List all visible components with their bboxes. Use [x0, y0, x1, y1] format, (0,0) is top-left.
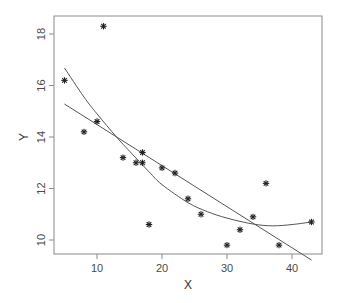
x-axis-title: X [184, 278, 192, 292]
x-axis: 10203040 [91, 254, 298, 274]
data-point-asterisk-icon [276, 242, 282, 248]
data-point-asterisk-icon [237, 227, 243, 233]
data-point-asterisk-icon [263, 180, 269, 186]
data-point-asterisk-icon [139, 149, 145, 155]
y-tick-label: 16 [35, 79, 47, 91]
data-point-asterisk-icon [308, 219, 314, 225]
y-axis: 1012141618 [35, 28, 54, 246]
fit-lines [65, 68, 312, 260]
data-point-asterisk-icon [198, 211, 204, 217]
y-tick-label: 12 [35, 182, 47, 194]
data-point-asterisk-icon [133, 160, 139, 166]
data-point-asterisk-icon [159, 165, 165, 171]
x-tick-label: 30 [221, 262, 233, 274]
x-tick-label: 10 [91, 262, 103, 274]
data-point-asterisk-icon [139, 160, 145, 166]
x-tick-label: 20 [156, 262, 168, 274]
data-point-asterisk-icon [100, 23, 106, 29]
data-point-asterisk-icon [81, 129, 87, 135]
linear-fit-line [65, 104, 312, 260]
scatter-plot: 10203040 1012141618 X Y [0, 0, 338, 303]
data-point-asterisk-icon [94, 118, 100, 124]
y-tick-label: 18 [35, 28, 47, 40]
data-point-asterisk-icon [224, 242, 230, 248]
x-tick-label: 40 [286, 262, 298, 274]
y-tick-label: 10 [35, 234, 47, 246]
data-point-asterisk-icon [61, 77, 67, 83]
smooth-fit-line [65, 68, 312, 226]
data-point-asterisk-icon [120, 154, 126, 160]
data-point-asterisk-icon [185, 196, 191, 202]
data-point-asterisk-icon [146, 221, 152, 227]
data-point-asterisk-icon [172, 170, 178, 176]
y-axis-title: Y [17, 133, 31, 141]
plot-frame [54, 16, 322, 254]
data-point-asterisk-icon [250, 214, 256, 220]
y-tick-label: 14 [35, 131, 47, 143]
data-points [61, 23, 314, 248]
